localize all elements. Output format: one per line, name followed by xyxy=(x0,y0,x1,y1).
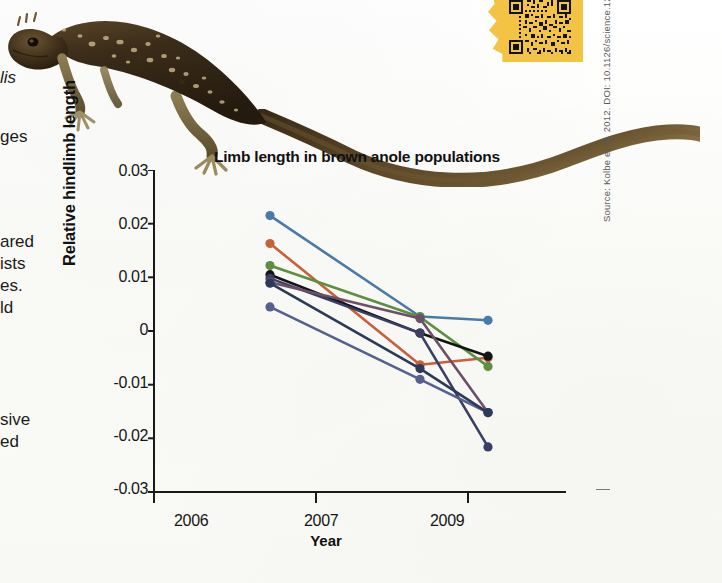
article-fragment: ges xyxy=(0,128,27,145)
y-axis-tick-labels: 0.03 0.02 0.01 0 -0.01 -0.02 -0.03 xyxy=(84,148,148,508)
y-tick-label: -0.03 xyxy=(114,480,148,498)
citation-rule xyxy=(596,489,610,490)
x-tick-label: 2009 xyxy=(430,512,464,530)
qr-code-icon[interactable] xyxy=(507,0,573,56)
x-tick-label: 2007 xyxy=(304,512,338,530)
source-citation: Source: Kolbe et al. 2012. DOI: 10.1126/… xyxy=(601,0,612,222)
x-tick-label: 2006 xyxy=(174,512,208,530)
qr-code-tag[interactable] xyxy=(487,0,583,62)
article-fragment: ed xyxy=(0,433,19,450)
y-tick-label: -0.02 xyxy=(114,427,148,445)
scanned-page: lis ges ared ists es. ld sive ed xyxy=(0,0,722,583)
article-fragment: ists xyxy=(0,255,26,272)
x-axis-title: Year xyxy=(236,532,416,549)
article-fragment: lis xyxy=(0,69,16,86)
y-tick-label: -0.01 xyxy=(114,374,148,392)
limb-length-chart: Limb length in brown anole populations R… xyxy=(86,148,576,568)
plot-area xyxy=(148,170,568,520)
article-fragment: sive xyxy=(0,411,30,428)
y-tick-label: 0 xyxy=(140,321,149,339)
article-fragment: es. xyxy=(0,277,23,294)
y-tick-label: 0.01 xyxy=(118,268,148,286)
chart-title: Limb length in brown anole populations xyxy=(182,148,532,166)
article-fragment: ld xyxy=(0,299,13,316)
article-fragment: ared xyxy=(0,233,34,250)
y-tick-label: 0.03 xyxy=(118,162,148,180)
y-axis-title: Relative hindlimb length xyxy=(60,80,79,266)
y-tick-label: 0.02 xyxy=(118,215,148,233)
series-line-population-4 xyxy=(265,270,492,361)
